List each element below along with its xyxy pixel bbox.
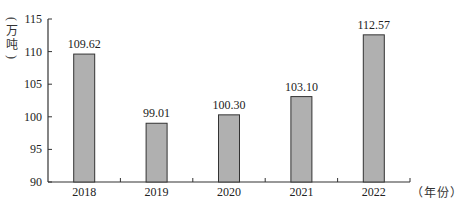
y-tick-label: 115	[24, 12, 42, 26]
x-tick-label: 2018	[72, 185, 96, 199]
bar-2022	[363, 35, 384, 182]
bar-value-label: 103.10	[285, 80, 318, 94]
x-tick-label: 2020	[217, 185, 241, 199]
x-tick-label: 2022	[362, 185, 386, 199]
bar-2021	[291, 97, 312, 182]
y-axis-label: ( 万 吨 )	[4, 14, 20, 62]
y-axis-label-close-paren: )	[7, 49, 17, 65]
bar-value-label: 100.30	[213, 98, 246, 112]
bar-2018	[74, 54, 95, 182]
y-tick-label: 100	[24, 110, 42, 124]
x-axis-label: （年份）	[411, 183, 459, 201]
y-tick-label: 90	[30, 175, 42, 189]
bar-2019	[146, 123, 167, 182]
y-axis-label-open-paren: (	[7, 11, 17, 27]
y-tick-label: 95	[30, 142, 42, 156]
bar-value-label: 99.01	[143, 106, 170, 120]
bar-2020	[219, 115, 240, 182]
y-tick-label: 110	[24, 45, 42, 59]
bar-value-label: 109.62	[68, 37, 101, 51]
bar-value-label: 112.57	[358, 18, 391, 32]
x-tick-label: 2019	[145, 185, 169, 199]
x-tick-label: 2021	[289, 185, 313, 199]
y-tick-label: 105	[24, 77, 42, 91]
